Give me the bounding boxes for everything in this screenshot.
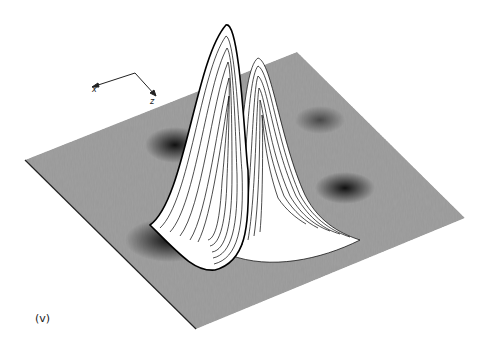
axis-indicator [92,73,156,96]
panel-label: (v) [35,312,50,325]
z-axis-label: z [150,97,154,106]
x-axis-label: x [92,85,97,94]
surface-plot [0,0,487,348]
